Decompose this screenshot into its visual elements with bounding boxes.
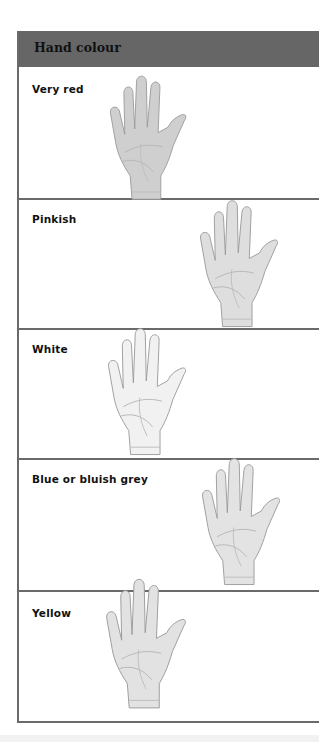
row-label: White	[32, 343, 68, 355]
page-bottom-band	[0, 735, 319, 742]
hand-palm-icon	[101, 569, 195, 719]
hand-colour-panel: Hand colour Very red Pinkish White Blue …	[17, 31, 319, 723]
row-label: Very red	[32, 83, 84, 95]
row-label: Pinkish	[32, 213, 76, 225]
hand-palm-icon	[195, 184, 287, 344]
row-label: Yellow	[32, 607, 71, 619]
panel-title: Hand colour	[34, 40, 121, 55]
hand-palm-icon	[197, 442, 289, 602]
row-label: Blue or bluish grey	[32, 473, 148, 485]
hand-palm-icon	[103, 311, 195, 473]
hand-palm-icon	[105, 58, 195, 218]
